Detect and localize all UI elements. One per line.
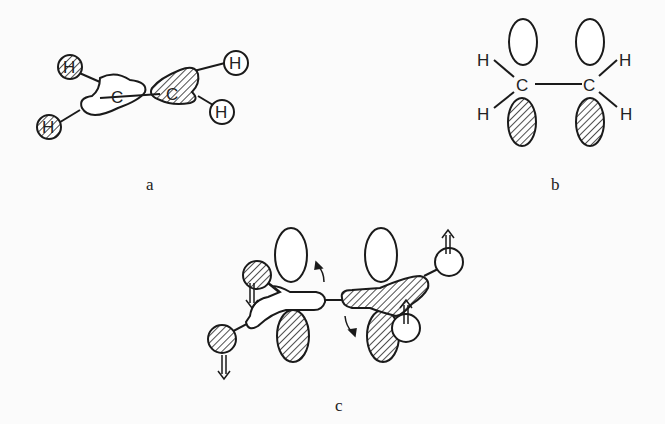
- atom-c: C: [111, 88, 123, 107]
- hydrogen-orb: [243, 261, 271, 289]
- p-orbital-top: [509, 19, 537, 65]
- p-orbital-top: [275, 228, 307, 282]
- panel-label-b: b: [551, 175, 560, 194]
- atom-c: C: [516, 76, 528, 95]
- atom-h: H: [229, 54, 241, 73]
- atom-c: C: [583, 76, 595, 95]
- p-orbital-top: [365, 228, 397, 282]
- p-orbital-bottom: [508, 98, 536, 146]
- atom-h: H: [620, 105, 632, 124]
- hydrogen-orb: [208, 325, 236, 353]
- atom-h: H: [215, 103, 227, 122]
- double-arrow-down-icon: [218, 355, 230, 379]
- p-orbital-bottom: [576, 98, 604, 146]
- hydrogen-orb: [435, 248, 463, 276]
- p-orbital-bottom: [277, 310, 309, 362]
- panel-label-a: a: [146, 175, 154, 194]
- atom-h: H: [42, 118, 54, 137]
- atom-h: H: [477, 51, 489, 70]
- panel-c: [208, 228, 463, 362]
- hydrogen-orb: [392, 314, 420, 342]
- atom-c: C: [166, 85, 178, 104]
- panel-b-atoms: H H C C H H: [477, 51, 632, 124]
- p-orbital-top: [576, 19, 604, 65]
- panel-b: [494, 19, 617, 146]
- atom-h: H: [63, 58, 75, 77]
- ethylene-orbital-diagram: H H H H C C a H H C C H H b: [0, 0, 665, 424]
- atom-h: H: [477, 105, 489, 124]
- panel-label-c: c: [335, 396, 343, 415]
- atom-h: H: [619, 51, 631, 70]
